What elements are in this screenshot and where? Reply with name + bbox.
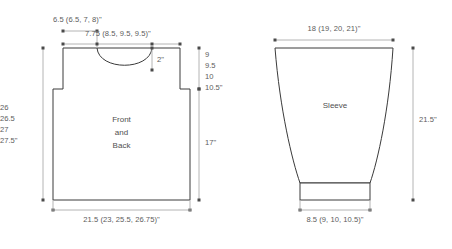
sleeve-piece-label: Sleeve xyxy=(294,100,376,113)
armhole-depth-value-2: 9.5 xyxy=(205,61,216,72)
armhole-depth-dimension xyxy=(198,47,201,91)
body-length-label: 17" xyxy=(205,138,216,149)
sleeve-piece-group xyxy=(275,48,393,200)
schematic-diagram: 6.5 (6.5, 7, 8)" 7.75 (8.5, 9.5, 9.5)" 2… xyxy=(0,0,452,249)
neck-depth-label: 2" xyxy=(157,55,164,66)
total-length-value-1: 26 xyxy=(0,103,38,114)
total-length-dimension xyxy=(42,47,45,202)
sleeve-upper-width-label: 18 (19, 20, 21)" xyxy=(273,24,395,35)
sleeve-length-dimension xyxy=(412,47,415,202)
front-back-piece-label-line3: Back xyxy=(81,140,162,153)
front-back-piece-label-line1: Front xyxy=(81,114,162,127)
sleeve-length-label: 21.5" xyxy=(419,115,437,126)
sleeve-outline xyxy=(275,48,393,183)
front-back-piece-label: Front and Back xyxy=(81,114,162,153)
sleeve-cuff-width-label: 8.5 (9, 10, 10.5)" xyxy=(278,215,392,226)
upper-width-dimension xyxy=(62,43,182,46)
total-length-value-3: 27 xyxy=(0,125,38,136)
sleeve-cuff-width-dimension xyxy=(299,200,372,212)
shoulder-width-label: 6.5 (6.5, 7, 8)" xyxy=(53,15,102,26)
total-length-value-4: 27.5" xyxy=(0,136,38,147)
upper-width-label: 7.75 (8.5, 9.5, 9.5)" xyxy=(85,29,151,40)
armhole-depth-value-3: 10 xyxy=(205,72,213,83)
bottom-width-label: 21.5 (23, 25.5, 26.75)" xyxy=(51,215,192,226)
schematic-drawing-layer xyxy=(0,0,452,249)
front-back-piece-label-line2: and xyxy=(81,127,162,140)
armhole-depth-value-1: 9 xyxy=(205,50,209,61)
sleeve-upper-width-dimension xyxy=(274,39,395,42)
bottom-width-dimension xyxy=(52,200,192,212)
armhole-depth-value-4: 10.5" xyxy=(205,83,222,94)
total-length-value-2: 26.5 xyxy=(0,114,38,125)
sleeve-cuff xyxy=(300,183,370,200)
body-length-dimension xyxy=(198,88,201,202)
